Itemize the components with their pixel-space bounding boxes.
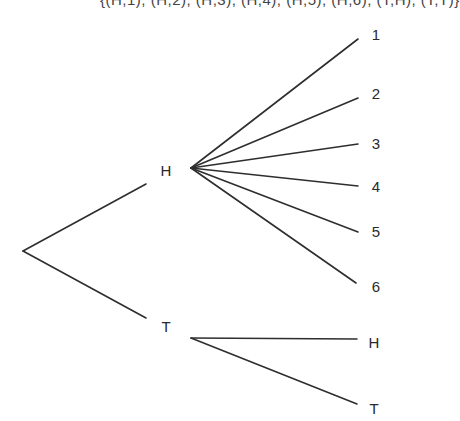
edge-T-to-T [191, 338, 357, 404]
node-label-T: T [161, 319, 170, 334]
edge-root-to-T [23, 251, 146, 318]
edge-H-to-6 [191, 168, 356, 283]
leaf-label-3: 3 [372, 136, 380, 151]
node-label-H: H [161, 163, 172, 178]
edge-H-to-2 [191, 98, 358, 168]
leaf-label-1: 1 [372, 27, 380, 42]
leaf-label-TH: H [369, 335, 380, 350]
leaf-label-TT: T [369, 401, 378, 416]
edge-root-to-H [23, 184, 146, 251]
leaf-label-2: 2 [372, 86, 380, 101]
edge-T-to-H [191, 338, 357, 339]
leaf-label-4: 4 [372, 179, 380, 194]
edge-H-to-3 [191, 144, 358, 168]
leaf-label-5: 5 [372, 224, 380, 239]
leaf-label-6: 6 [372, 279, 380, 294]
edge-H-to-1 [191, 39, 358, 168]
